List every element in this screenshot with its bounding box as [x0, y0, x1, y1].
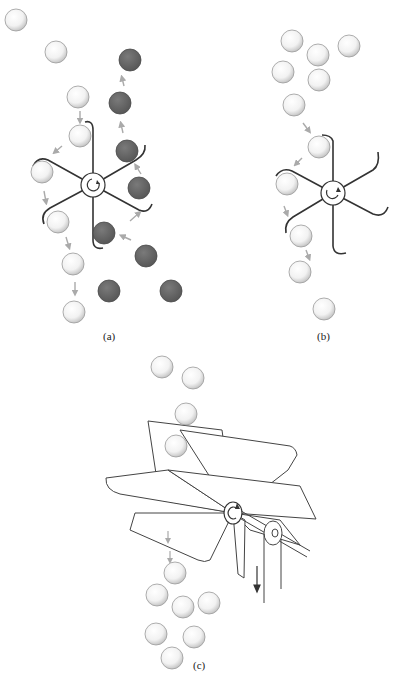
white-ball: [172, 596, 194, 618]
white-ball: [182, 367, 204, 389]
white-ball: [290, 225, 312, 247]
white-ball: [198, 592, 220, 614]
dark-ball: [109, 92, 131, 114]
white-ball: [281, 30, 303, 52]
panel-a-hub: [81, 173, 105, 197]
dark-ball: [128, 177, 150, 199]
dark-ball: [135, 245, 157, 267]
panel-b-hub: [321, 181, 345, 205]
dark-ball: [119, 49, 141, 71]
dark-ball: [98, 280, 120, 302]
white-ball: [165, 435, 187, 457]
white-ball: [308, 136, 330, 158]
white-ball: [146, 584, 168, 606]
panel-c-hub: [224, 502, 242, 524]
caption-b: (b): [317, 330, 330, 342]
white-ball: [183, 626, 205, 648]
panel-c-weight-arrow: [254, 566, 260, 592]
caption-c: (c): [193, 659, 205, 671]
white-ball: [161, 647, 183, 669]
white-ball: [313, 298, 335, 320]
white-ball: [164, 562, 186, 584]
white-ball: [47, 211, 69, 233]
white-ball: [283, 94, 305, 116]
caption-a: (a): [103, 330, 115, 342]
white-ball: [276, 173, 298, 195]
white-ball: [289, 261, 311, 283]
white-ball: [63, 301, 85, 323]
white-ball: [31, 161, 53, 183]
figure-canvas: [0, 0, 405, 683]
white-ball: [145, 623, 167, 645]
white-ball: [307, 44, 329, 66]
white-ball: [62, 253, 84, 275]
dark-ball: [116, 140, 138, 162]
white-ball: [69, 125, 91, 147]
white-ball: [67, 86, 89, 108]
dark-ball: [160, 280, 182, 302]
white-ball: [45, 41, 67, 63]
white-ball: [338, 35, 360, 57]
white-ball: [175, 403, 197, 425]
white-ball: [151, 356, 173, 378]
panel-b-balls: [272, 30, 360, 320]
white-ball: [272, 61, 294, 83]
white-ball: [308, 69, 330, 91]
panel-c-paddle-wheel: [106, 421, 316, 578]
dark-ball: [93, 222, 115, 244]
panel-c-axle: [236, 508, 310, 603]
white-ball: [5, 9, 27, 31]
